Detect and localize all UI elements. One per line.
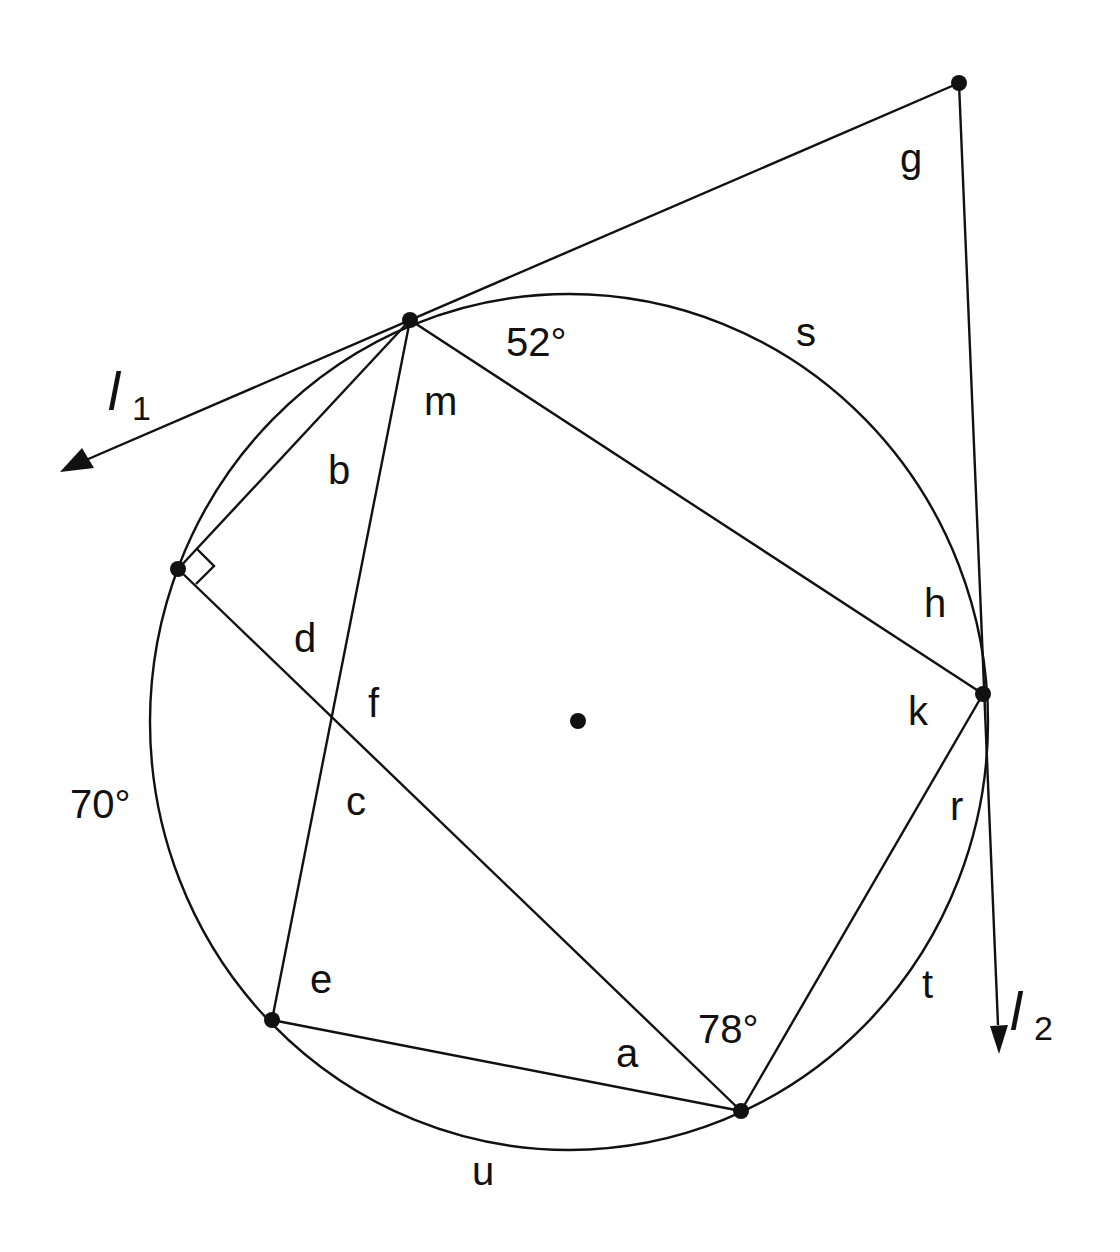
chord-T2-B [741, 694, 983, 1111]
chord-T1-P [178, 320, 410, 569]
point-E [264, 1012, 280, 1028]
angle-label-a: a [616, 1031, 639, 1075]
chord-E-B [272, 1020, 741, 1111]
angle-label-k: k [908, 689, 929, 733]
label-l2: l [1010, 981, 1024, 1041]
right-angle-marker-icon [196, 549, 214, 584]
arrowhead-l2-icon [990, 1025, 1008, 1054]
angle-label-g: g [900, 136, 922, 180]
arc-label-s: s [796, 310, 816, 354]
point-T2 [975, 686, 991, 702]
tangent-line-l2 [959, 83, 998, 1025]
angle-label-m: m [424, 379, 457, 423]
angle-label-c: c [346, 779, 366, 823]
angle-label-d: d [294, 616, 316, 660]
angle-label-b: b [328, 448, 350, 492]
given-angle-bottom: 78° [698, 1007, 759, 1051]
label-l1-sub: 1 [132, 389, 151, 427]
angle-label-r: r [950, 784, 963, 828]
point-B [733, 1103, 749, 1119]
arc-label-t: t [922, 962, 933, 1006]
label-l2-sub: 2 [1034, 1009, 1053, 1047]
point-P [170, 561, 186, 577]
angle-label-h: h [924, 581, 946, 625]
angle-label-f: f [368, 681, 380, 725]
chord-T1-E [272, 320, 410, 1020]
point-T1 [402, 312, 418, 328]
tangent-line-l1 [86, 83, 959, 460]
angle-label-e: e [310, 957, 332, 1001]
given-arc-top: 52° [506, 320, 567, 364]
chord-T1-T2 [410, 320, 983, 694]
chord-P-B [178, 569, 741, 1111]
center-point [570, 713, 586, 729]
arrowhead-l1-icon [60, 448, 94, 472]
circle-theorem-diagram: l 1 l 2 52° 70° 78° g m b d f c h k r e … [0, 0, 1120, 1252]
arc-label-u: u [472, 1149, 494, 1193]
point-G [951, 75, 967, 91]
label-l1: l [108, 361, 122, 421]
given-arc-left: 70° [70, 782, 131, 826]
